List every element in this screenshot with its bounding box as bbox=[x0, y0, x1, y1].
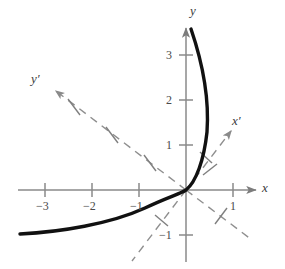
y-prime-axis-negative-ray bbox=[186, 190, 252, 240]
x-tick-label-neg2: −2 bbox=[83, 200, 96, 212]
y-tick-label-2: 2 bbox=[166, 94, 172, 106]
x-tick-label-neg3: −3 bbox=[36, 200, 49, 212]
x-axis-label: x bbox=[262, 181, 268, 194]
y-prime-axis-label: y′ bbox=[31, 72, 40, 85]
y-tick-label-1: 1 bbox=[166, 139, 172, 151]
x-prime-axis-label: x′ bbox=[232, 114, 241, 127]
x-tick-label-neg1: −1 bbox=[130, 200, 143, 212]
y-prime-negative-ticks bbox=[215, 208, 227, 224]
y-prime-neg-tick-1 bbox=[215, 208, 227, 224]
y-tick-label-neg1: −1 bbox=[159, 229, 172, 241]
rotated-axes bbox=[56, 91, 252, 261]
y-prime-tick-1 bbox=[144, 155, 156, 171]
math-figure: y x y′ x′ −3 −2 −1 1 3 2 1 −1 bbox=[0, 0, 285, 269]
y-tick-label-3: 3 bbox=[166, 49, 172, 61]
y-axis-label: y bbox=[190, 4, 196, 17]
y-prime-tick-2 bbox=[106, 127, 118, 143]
y-prime-tick-3 bbox=[68, 99, 80, 115]
x-tick-label-pos1: 1 bbox=[230, 200, 236, 212]
plot-canvas bbox=[0, 0, 285, 269]
